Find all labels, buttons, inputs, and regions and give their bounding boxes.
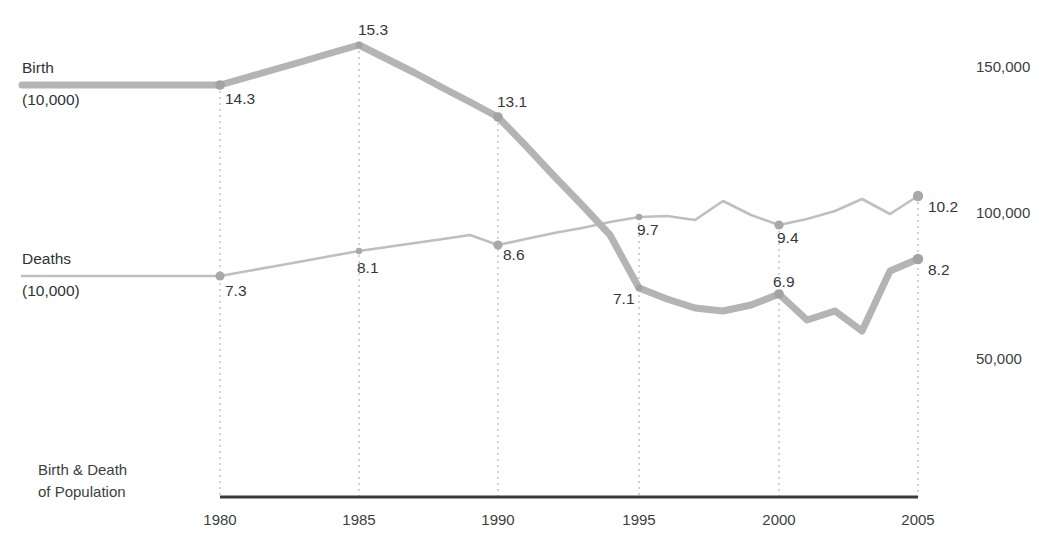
- x-axis-tick-1990: 1990: [481, 511, 514, 530]
- right-axis-tick-50000: 50,000: [976, 350, 1022, 369]
- deaths-marker-1990: [493, 240, 502, 249]
- value-label-deaths-2000: 9.4: [777, 228, 799, 247]
- deaths-line: [220, 196, 918, 276]
- birth-death-line-chart: Birth (10,000) Deaths (10,000) 14.3 15.3…: [0, 0, 1044, 556]
- value-label-deaths-2005: 10.2: [928, 197, 958, 216]
- value-label-birth-2000: 6.9: [773, 272, 795, 291]
- chart-plot-area: [0, 0, 1044, 556]
- value-label-birth-2005: 8.2: [928, 260, 950, 279]
- birth-marker-1990: [493, 112, 503, 122]
- x-axis-tick-1980: 1980: [203, 511, 236, 530]
- legend-unit-birth: (10,000): [22, 90, 80, 109]
- value-label-birth-1995: 7.1: [613, 289, 635, 308]
- value-label-birth-1990: 13.1: [497, 92, 527, 111]
- right-axis-tick-100000: 100,000: [976, 204, 1030, 223]
- x-axis-tick-1995: 1995: [622, 511, 655, 530]
- chart-caption-line2: of Population: [38, 481, 126, 503]
- legend-label-deaths: Deaths: [22, 249, 71, 268]
- birth-marker-2005: [913, 254, 923, 264]
- value-label-deaths-1995: 9.7: [637, 220, 659, 239]
- birth-markers: [215, 42, 923, 299]
- deaths-marker-1980: [215, 271, 224, 280]
- value-label-deaths-1985: 8.1: [357, 258, 379, 277]
- x-axis-tick-2005: 2005: [901, 511, 934, 530]
- deaths-marker-1985: [356, 248, 362, 254]
- legend-label-birth: Birth: [22, 58, 54, 77]
- legend-unit-deaths: (10,000): [22, 281, 80, 300]
- gridlines: [220, 45, 918, 497]
- value-label-deaths-1980: 7.3: [225, 281, 247, 300]
- x-axis-tick-1985: 1985: [342, 511, 375, 530]
- deaths-marker-2005: [913, 191, 923, 201]
- value-label-birth-1980: 14.3: [225, 89, 255, 108]
- birth-marker-1980: [215, 80, 225, 90]
- birth-marker-1995: [636, 285, 643, 292]
- right-axis-tick-150000: 150,000: [976, 58, 1030, 77]
- birth-line: [220, 45, 918, 331]
- chart-caption-line1: Birth & Death: [38, 459, 127, 481]
- birth-marker-1985: [356, 42, 363, 49]
- x-axis-tick-2000: 2000: [762, 511, 795, 530]
- value-label-deaths-1990: 8.6: [503, 245, 525, 264]
- deaths-markers: [215, 191, 923, 281]
- value-label-birth-1985: 15.3: [358, 20, 388, 39]
